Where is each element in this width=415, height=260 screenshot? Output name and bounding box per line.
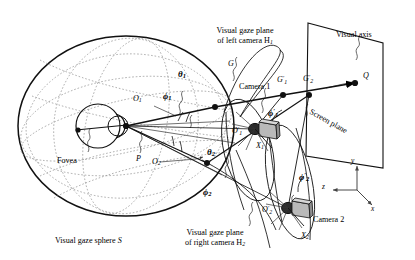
label-fovea: Fovea [57,157,77,165]
axis-x-line [357,190,372,205]
phi1p-sub: 1 [275,111,278,118]
phi1-sub: 1 [168,94,171,101]
O2-sub: 2 [158,160,161,166]
label-gaze-plane-left: Visual gaze plane of left camera H1 [186,26,304,46]
screen-plane [306,23,383,168]
label-camera-2: Camera 2 [313,216,344,224]
theta2-sub: 2 [212,150,215,157]
G2p-sub: 2 [310,78,313,84]
label-point-Q: Q [363,72,369,80]
label-point-P: P [136,155,141,163]
O2p-sub: 2 [269,209,272,215]
sphere-label-text: Visual gaze sphere [55,236,116,245]
O1-sub: 1 [139,97,142,103]
label-gaze-plane-right: Visual gaze plane of right camera H2 [152,228,278,248]
label-chi-2: Χ2 [301,232,309,241]
coordinate-axes [333,166,372,205]
O1p-sub: 1 [239,130,242,136]
label-point-G: G [228,60,234,68]
gaze-plane-right-line2: of right camera H [185,238,242,247]
label-point-G2-prime: G′2 [303,75,313,85]
label-phi-1-prime: ϕ′1 [268,108,278,119]
label-point-O1: O1 [133,95,142,104]
chi1-sub: 1 [261,144,264,150]
label-point-O2-prime: O′2 [262,206,272,216]
label-phi-2-prime: ϕ′2 [299,172,309,183]
label-point-O2: O2 [152,158,161,167]
label-phi-1: ϕ1 [163,92,171,102]
label-axis-y: y [351,157,354,164]
label-axis-x: x [371,205,374,212]
label-theta-1: θ1 [178,70,186,80]
sphere-label-symbol: S [118,236,122,245]
gaze-plane-left-line1: Visual gaze plane [216,26,273,35]
leader-lines [88,36,360,226]
gaze-plane-right-line1: Visual gaze plane [186,228,243,237]
theta1-sub: 1 [183,72,186,79]
label-phi-2: ϕ2 [203,188,211,198]
label-theta-2: θ2 [207,148,215,158]
label-visual-axis: Visual axis [336,31,372,39]
phi2-sub: 2 [208,190,211,197]
label-point-O1-prime: O′1 [232,127,242,137]
label-camera-1: Camera 1 [239,83,270,91]
gaze-plane-left-line2: of left camera H [217,36,270,45]
label-point-G1-prime: G′1 [277,76,287,86]
phi2p-sub: 2 [306,175,309,182]
gaze-geometry-figure: Visual gaze plane of left camera H1 Visu… [0,0,415,260]
label-visual-gaze-sphere: Visual gaze sphere S [55,237,122,245]
chi2-sub: 2 [306,234,309,240]
gaze-plane-right-sub: 2 [242,241,245,247]
G1p-sub: 1 [284,79,287,85]
angle-arcs [172,110,304,192]
gaze-plane-left-sub: 1 [270,39,273,45]
label-chi-1: Χ1 [256,142,264,151]
label-axis-z: z [322,183,325,190]
